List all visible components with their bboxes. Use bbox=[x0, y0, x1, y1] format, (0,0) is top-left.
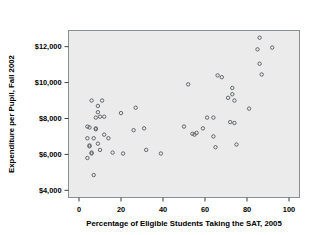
y-tick-label: $6,000 bbox=[39, 150, 62, 159]
x-tick-label: 100 bbox=[283, 205, 295, 214]
x-tick-label: 20 bbox=[117, 205, 125, 214]
y-tick-label: $12,000 bbox=[35, 42, 62, 51]
x-tick-label: 80 bbox=[243, 205, 251, 214]
plot-area bbox=[69, 31, 300, 198]
x-axis-title: Percentage of Eligible Students Taking t… bbox=[86, 219, 282, 228]
y-tick-label: $4,000 bbox=[39, 186, 62, 195]
chart-canvas: $4,000$6,000$8,000$10,000$12,000 0204060… bbox=[0, 0, 316, 235]
x-tick-label: 0 bbox=[77, 205, 81, 214]
y-axis-title: Expenditure per Pupil, Fall 2002 bbox=[7, 54, 16, 173]
x-tick-label: 60 bbox=[201, 205, 209, 214]
x-tick-label: 40 bbox=[159, 205, 167, 214]
y-tick-label: $8,000 bbox=[39, 114, 62, 123]
y-tick-label: $10,000 bbox=[35, 78, 62, 87]
scatter-plot-figure: $4,000$6,000$8,000$10,000$12,000 0204060… bbox=[0, 0, 316, 235]
